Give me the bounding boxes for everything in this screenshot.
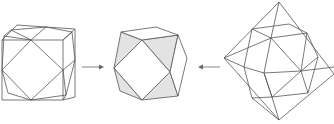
inner-square-front — [2, 40, 63, 100]
cube-with-cuboctahedron — [2, 25, 75, 100]
inner-edge-e — [63, 70, 66, 95]
cubo-middle-line — [264, 67, 334, 73]
octahedron-outline — [224, 2, 334, 120]
octahedron-with-cuboctahedron — [224, 2, 334, 120]
inner-edge-b — [31, 27, 46, 40]
cubo-bottom-front — [264, 71, 308, 97]
arrow-right — [82, 65, 104, 70]
oct-edge-left — [224, 38, 271, 58]
cubo-bottom-apex — [252, 97, 279, 120]
inner-edge-a — [2, 36, 31, 70]
inner-right — [63, 32, 75, 100]
inner-bottom — [2, 70, 66, 100]
cuboctahedron — [114, 27, 187, 100]
cubo-left — [244, 29, 271, 73]
diagram-canvas — [0, 0, 334, 124]
cubo-left-link — [224, 58, 244, 67]
arrow-left — [198, 65, 220, 70]
cubo-front-top — [271, 33, 307, 71]
cubo-bottom-left — [244, 67, 272, 98]
cubo-right-lower — [308, 57, 318, 93]
cubo-top-square — [252, 24, 307, 38]
cube-front-face — [2, 40, 63, 100]
oct-edge-top — [271, 2, 279, 38]
